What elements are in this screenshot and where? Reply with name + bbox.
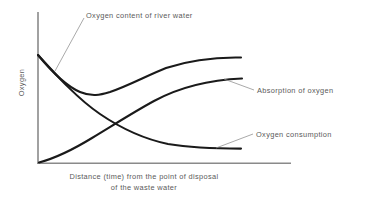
chart-plot-area (0, 0, 370, 200)
x-axis-label-line-1: Distance (time) from the point of dispos… (36, 172, 252, 183)
leader-line-absorption-of-oxygen (224, 79, 254, 90)
series-line-oxygen-consumption (38, 55, 241, 149)
series-annotation-oxygen-content-of-river-water: Oxygen content of river water (86, 11, 193, 21)
x-axis-label-line-2: of the waste water (36, 183, 252, 194)
series-line-oxygen-content-of-river-water (38, 55, 241, 95)
oxygen-sag-chart: Oxygen content of river water Absorption… (0, 0, 370, 200)
series-annotation-oxygen-consumption: Oxygen consumption (256, 130, 332, 140)
y-axis-label: Oxygen (17, 53, 26, 113)
leader-line-oxygen-content-of-river-water (55, 18, 84, 71)
series-line-absorption-of-oxygen (39, 79, 242, 163)
x-axis-label: Distance (time) from the point of dispos… (36, 172, 252, 193)
leader-line-oxygen-consumption (216, 134, 253, 148)
series-annotation-absorption-of-oxygen: Absorption of oxygen (257, 86, 333, 96)
